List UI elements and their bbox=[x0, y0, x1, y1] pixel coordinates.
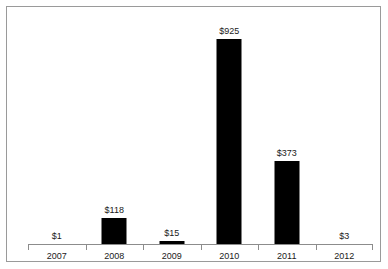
bar-group: $118 bbox=[86, 19, 144, 244]
bar-value-label: $925 bbox=[219, 26, 239, 36]
bar-value-label: $1 bbox=[52, 231, 62, 241]
plot-area: $1$118$15$925$373$3 bbox=[28, 19, 373, 245]
x-axis-tick-label: 2009 bbox=[143, 250, 201, 262]
x-axis-tick-label: 2010 bbox=[201, 250, 259, 262]
bar-group: $15 bbox=[143, 19, 201, 244]
bar-group: $373 bbox=[258, 19, 316, 244]
x-axis-tick-label: 2012 bbox=[316, 250, 374, 262]
bar-value-label: $3 bbox=[339, 231, 349, 241]
x-axis-tick-label: 2011 bbox=[258, 250, 316, 262]
chart-frame-border: $1$118$15$925$373$3 20072008200920102011… bbox=[6, 6, 381, 262]
bar-group: $1 bbox=[28, 19, 86, 244]
bar bbox=[274, 161, 299, 244]
bar-chart-figure: $1$118$15$925$373$3 20072008200920102011… bbox=[0, 0, 388, 269]
bar-value-label: $373 bbox=[277, 148, 297, 158]
bar bbox=[102, 218, 127, 244]
bar bbox=[217, 39, 242, 244]
bars-layer: $1$118$15$925$373$3 bbox=[28, 19, 373, 244]
bar-value-label: $118 bbox=[105, 205, 124, 215]
x-axis-tick-labels: 200720082009201020112012 bbox=[28, 250, 373, 264]
bar-value-label: $15 bbox=[164, 228, 179, 238]
x-axis-tick-label: 2008 bbox=[86, 250, 144, 262]
bar-group: $925 bbox=[201, 19, 259, 244]
x-axis-tick-label: 2007 bbox=[28, 250, 86, 262]
bar-group: $3 bbox=[316, 19, 374, 244]
